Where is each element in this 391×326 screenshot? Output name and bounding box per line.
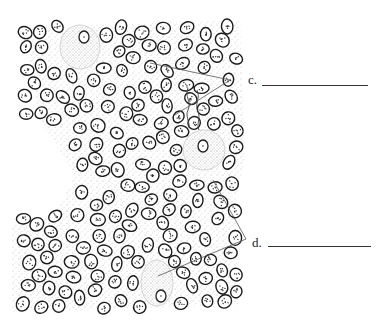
label-c: c. — [248, 72, 257, 88]
label-d: d. — [252, 235, 262, 251]
answer-line-c[interactable] — [262, 85, 368, 86]
tissue-illustration — [0, 0, 391, 326]
answer-line-d[interactable] — [268, 246, 371, 247]
tissue-diagram: c. d. — [0, 0, 391, 326]
